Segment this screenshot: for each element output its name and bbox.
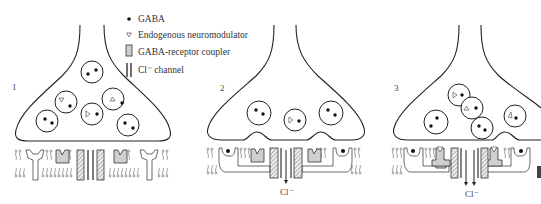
gaba-receptor-coupler [114, 150, 127, 163]
legend-coupler: GABA-receptor coupler [138, 47, 231, 57]
vesicle [81, 103, 103, 125]
coupler-icon [126, 45, 132, 56]
legend-gaba: GABA [138, 14, 165, 24]
vesicle [461, 97, 483, 119]
edge-artifact [537, 166, 541, 178]
vesicle [102, 88, 124, 110]
legend-channel: Cl⁻ channel [138, 65, 184, 75]
vesicle [504, 105, 526, 127]
cl-channel-wall [451, 148, 458, 178]
legend: GABA Endogenous neuromodulator GABA-rece… [126, 14, 249, 77]
vesicle [471, 117, 493, 139]
vesicle [36, 110, 58, 132]
synapse-diagram: GABA Endogenous neuromodulator GABA-rece… [0, 0, 541, 204]
bound-gaba [341, 149, 345, 153]
legend-neuromodulator: Endogenous neuromodulator [138, 30, 249, 40]
gaba-receptor-coupler [308, 149, 321, 162]
bound-gaba [411, 149, 415, 153]
bound-gaba [519, 149, 523, 153]
gaba-receptor-coupler [251, 149, 264, 162]
vesicle [424, 110, 448, 134]
panel-number: 1 [12, 82, 17, 92]
vesicle [81, 61, 103, 83]
vesicle [117, 114, 139, 136]
cl-ion-label: Cl⁻ [465, 189, 479, 199]
cl-channel-wall [270, 148, 278, 178]
gaba-receptor-coupler [56, 150, 69, 163]
bound-gaba [226, 149, 230, 153]
cl-channel-wall [294, 148, 302, 178]
vesicle [247, 101, 271, 125]
cl-channel-wall [97, 150, 104, 180]
cl-channel-wall [481, 148, 488, 178]
gaba-receptor [26, 150, 44, 180]
vesicle [55, 91, 77, 113]
neuromodulator-triangle-icon [127, 33, 132, 37]
panel-2: 2 Cl⁻ [207, 25, 365, 197]
cl-ion-label: Cl⁻ [280, 187, 294, 197]
panel-number: 2 [220, 83, 225, 93]
panel-number: 3 [394, 83, 399, 93]
gaba-receptor [140, 150, 158, 180]
cl-channel-wall [77, 150, 84, 180]
vesicle [284, 109, 306, 131]
gaba-dot-icon [127, 17, 131, 21]
panel-3: 3 Cl⁻ [392, 25, 541, 199]
vesicle [319, 101, 343, 125]
